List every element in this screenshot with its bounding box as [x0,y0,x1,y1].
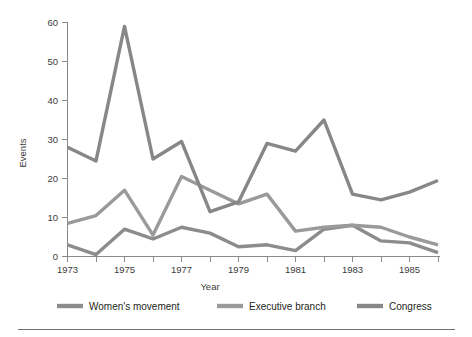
legend-label-womens-movement: Women's movement [89,301,180,312]
y-tick-label-50: 50 [47,56,58,67]
series-layer [68,26,439,254]
y-tick-label-60: 60 [47,17,58,28]
series-line-executive-branch [68,177,439,245]
y-tick-label-20: 20 [47,173,58,184]
y-tick-label-40: 40 [47,95,58,106]
series-line-women-s-movement [68,225,439,254]
x-tick-label-1983: 1983 [342,264,363,275]
x-tick-label-1973: 1973 [57,264,78,275]
y-tick-label-0: 0 [53,251,58,262]
x-tick-label-1977: 1977 [171,264,192,275]
legend-label-congress: Congress [389,301,432,312]
chart-legend: Women's movement Executive branch Congre… [57,301,432,312]
legend-label-executive-branch: Executive branch [249,301,326,312]
y-tick-marks [62,23,68,257]
y-tick-label-10: 10 [47,212,58,223]
x-tick-label-1981: 1981 [285,264,306,275]
x-tick-label-1985: 1985 [399,264,420,275]
line-chart-svg: 60 50 40 30 20 10 0 Events [0,0,472,337]
x-tick-labels: 1973 1975 1977 1979 1981 1983 1985 [57,264,420,275]
x-tick-label-1975: 1975 [114,264,135,275]
x-tick-marks [68,257,439,263]
series-line-congress [68,26,439,211]
y-axis-title: Events [17,138,28,167]
x-tick-label-1979: 1979 [228,264,249,275]
y-tick-labels: 60 50 40 30 20 10 0 [47,17,58,262]
y-tick-label-30: 30 [47,134,58,145]
x-axis-title: Year [200,281,219,292]
chart-figure: 60 50 40 30 20 10 0 Events [0,0,472,337]
